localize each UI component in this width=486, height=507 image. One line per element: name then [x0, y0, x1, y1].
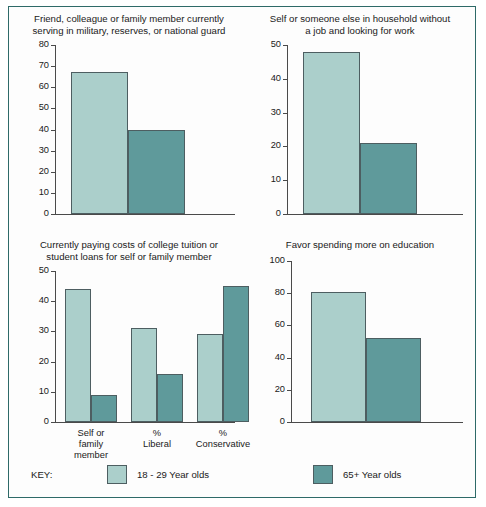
y-axis-tick-label: 40 [39, 125, 49, 134]
bar-65-year-olds [157, 374, 183, 422]
chart-figure: Friend, colleague or family member curre… [8, 6, 476, 498]
y-axis-tick [51, 301, 55, 302]
y-axis-tick-label: 20 [39, 167, 49, 176]
y-axis-tick [283, 113, 287, 114]
y-axis-tick [51, 271, 55, 272]
y-axis-tick-label: 50 [271, 40, 281, 49]
plot-area-bottom-right: 020406080100 [291, 261, 463, 423]
bar-18-29-year-olds [311, 292, 366, 422]
y-axis-tick [287, 293, 291, 294]
y-axis-tick-label: 80 [275, 289, 285, 298]
panel-title: Friend, colleague or family member curre… [15, 13, 243, 36]
y-axis-tick [51, 331, 55, 332]
y-axis-tick-label: 0 [276, 209, 281, 218]
y-axis-tick-label: 30 [39, 146, 49, 155]
plot-area-top-left: 01020304050607080 [55, 45, 235, 215]
y-axis-tick-label: 20 [275, 385, 285, 394]
bar-65-year-olds [128, 130, 185, 215]
y-axis-tick-label: 10 [39, 188, 49, 197]
y-axis-tick [51, 45, 55, 46]
chart-legend: KEY: 18 - 29 Year olds 65+ Year olds [9, 465, 475, 489]
y-axis-tick-label: 40 [275, 353, 285, 362]
y-axis-tick-label: 80 [39, 40, 49, 49]
y-axis-tick [51, 130, 55, 131]
y-axis [55, 271, 56, 423]
panel-bottom-left: Currently paying costs of college tuitio… [15, 239, 243, 449]
panel-bottom-right: Favor spending more on education 0204060… [249, 239, 471, 449]
x-axis-category-label: % Conservative [196, 428, 250, 450]
y-axis-tick-label: 100 [269, 256, 285, 265]
bar-65-year-olds [366, 338, 421, 422]
y-axis-tick [287, 358, 291, 359]
y-axis-tick-label: 40 [271, 74, 281, 83]
legend-label-65plus: 65+ Year olds [343, 469, 401, 481]
x-axis [55, 422, 235, 423]
bar-65-year-olds [360, 143, 417, 214]
x-axis-category-label: % Liberal [143, 428, 171, 450]
legend-label-18-29: 18 - 29 Year olds [137, 469, 209, 481]
y-axis-tick-label: 20 [39, 357, 49, 366]
y-axis-tick [51, 108, 55, 109]
y-axis-tick [283, 214, 287, 215]
x-axis [287, 214, 463, 215]
panel-title: Favor spending more on education [249, 239, 471, 251]
y-axis-tick-label: 60 [275, 321, 285, 330]
legend-swatch-65plus [313, 465, 333, 484]
panel-top-right: Self or someone else in household withou… [249, 13, 471, 228]
bar-18-29-year-olds [197, 334, 223, 422]
bar-18-29-year-olds [131, 328, 157, 422]
y-axis-tick-label: 10 [271, 176, 281, 185]
y-axis-tick [51, 172, 55, 173]
y-axis-tick [51, 362, 55, 363]
bar-18-29-year-olds [65, 289, 91, 422]
y-axis-tick [283, 146, 287, 147]
y-axis-tick [283, 79, 287, 80]
y-axis-tick-label: 30 [271, 108, 281, 117]
y-axis-tick [51, 151, 55, 152]
bar-65-year-olds [91, 395, 117, 422]
plot-area-bottom-left: 01020304050Self or family member% Libera… [55, 271, 235, 423]
y-axis-tick-label: 40 [39, 297, 49, 306]
y-axis-tick [51, 214, 55, 215]
y-axis-tick [287, 261, 291, 262]
panel-top-left: Friend, colleague or family member curre… [15, 13, 243, 228]
y-axis-tick [287, 422, 291, 423]
y-axis-tick-label: 60 [39, 83, 49, 92]
y-axis-tick-label: 50 [39, 266, 49, 275]
x-axis [55, 214, 235, 215]
x-axis-category-label: Self or family member [74, 428, 108, 461]
legend-swatch-18-29 [107, 465, 127, 484]
y-axis [287, 45, 288, 215]
x-axis [291, 422, 463, 423]
y-axis-tick [287, 325, 291, 326]
y-axis-tick-label: 0 [44, 209, 49, 218]
bar-18-29-year-olds [303, 52, 360, 214]
y-axis-tick [51, 392, 55, 393]
y-axis-tick-label: 50 [39, 104, 49, 113]
bar-18-29-year-olds [71, 72, 128, 214]
y-axis-tick [51, 422, 55, 423]
y-axis-tick-label: 30 [39, 327, 49, 336]
y-axis-tick [51, 193, 55, 194]
y-axis-tick-label: 0 [280, 417, 285, 426]
y-axis-tick-label: 20 [271, 142, 281, 151]
y-axis-tick-label: 70 [39, 61, 49, 70]
y-axis [291, 261, 292, 423]
plot-area-top-right: 01020304050 [287, 45, 463, 215]
y-axis-tick-label: 0 [44, 417, 49, 426]
y-axis [55, 45, 56, 215]
panel-title: Currently paying costs of college tuitio… [15, 239, 243, 262]
y-axis-tick [51, 66, 55, 67]
y-axis-tick [283, 45, 287, 46]
y-axis-tick [283, 180, 287, 181]
y-axis-tick-label: 10 [39, 387, 49, 396]
legend-title: KEY: [31, 469, 52, 481]
y-axis-tick [287, 390, 291, 391]
y-axis-tick [51, 87, 55, 88]
panel-title: Self or someone else in household withou… [249, 13, 471, 36]
bar-65-year-olds [223, 286, 249, 422]
